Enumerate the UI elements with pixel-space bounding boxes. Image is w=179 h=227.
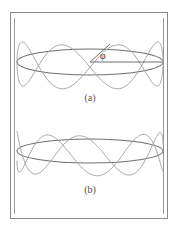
wave-b-1: [17, 134, 163, 176]
phi-label: φ: [100, 50, 106, 61]
ring-b: [17, 139, 163, 163]
wave-b-2: [17, 131, 163, 175]
diagram: φ (a) (b): [0, 0, 179, 227]
panel-b: (b): [17, 131, 163, 196]
panel-a-label: (a): [84, 92, 95, 104]
panel-a: φ (a): [17, 42, 163, 104]
panel-b-label: (b): [84, 184, 96, 196]
